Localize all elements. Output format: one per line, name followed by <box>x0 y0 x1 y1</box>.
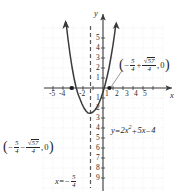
x-tick-label-3: 3 <box>125 90 129 98</box>
y-tick-label-3: 3 <box>96 54 100 62</box>
y-tick-label--3: 3 <box>96 114 100 122</box>
x-tick-label-4: 4 <box>134 90 138 98</box>
minus-operator: − <box>20 142 26 152</box>
fraction-five-fourths: 54 <box>130 58 136 74</box>
y-axis-name-label: y <box>94 9 98 18</box>
y-tick-label-2: 2 <box>96 64 100 72</box>
fraction-five-fourths: 54 <box>14 140 20 156</box>
x-tick-label--5: -5 <box>49 90 55 98</box>
x-tick-label--2: -2 <box>79 90 85 98</box>
y-tick-label--8: 8 <box>96 164 100 172</box>
paren-open: ( <box>119 57 124 72</box>
x-tick-label-5: 5 <box>143 90 147 98</box>
equals-sign: = <box>59 176 65 186</box>
radical-57: √57 <box>142 57 156 65</box>
x-tick-label-1: 1 <box>105 90 109 98</box>
radical-57: √57 <box>26 139 40 147</box>
fraction-five-fourths: 54 <box>71 174 77 190</box>
fraction-radical-fourths: √574 <box>26 139 40 156</box>
y-tick-label--9: 9 <box>96 174 100 182</box>
fraction-radical-fourths: √574 <box>142 57 156 74</box>
axis-of-symmetry-label: x=−54 <box>55 172 77 189</box>
minus-sign: − <box>65 176 71 186</box>
y-tick-label--4: 4 <box>96 124 100 132</box>
y-tick-label-5: 5 <box>96 34 100 42</box>
x-axis-name-label: x <box>170 91 174 100</box>
equation-constant: 4 <box>151 125 155 135</box>
x-tick-label--4: -4 <box>59 90 65 98</box>
minus-sign: − <box>124 60 130 70</box>
y-tick-label--1: 1 <box>96 94 100 102</box>
y-tick-label-1: 1 <box>96 74 100 82</box>
x-tick-label-2: 2 <box>115 90 119 98</box>
x-intercept-point-left <box>70 86 74 90</box>
quadratic-graph-figure: -5 -4 -2 1 2 3 4 5 1 2 3 4 5 1 2 3 4 5 6… <box>0 0 192 196</box>
y-tick-label--7: 7 <box>96 154 100 162</box>
paren-close: ) <box>165 57 170 72</box>
left-root-label: (−54−√574,0) <box>3 138 54 156</box>
plus-sign: + <box>136 60 142 70</box>
y-tick-label-4: 4 <box>96 44 100 52</box>
paren-close: ) <box>49 139 54 154</box>
right-root-label: (−54+√574,0) <box>119 56 170 74</box>
minus-sign: − <box>8 142 14 152</box>
y-tick-label--5: 5 <box>96 134 100 142</box>
paren-open: ( <box>3 139 8 154</box>
y-tick-label--2: 2 <box>96 104 100 112</box>
equation-label: y=2x2+5x−4 <box>111 124 155 135</box>
y-axis <box>100 14 106 191</box>
y-tick-label--6: 6 <box>96 144 100 152</box>
